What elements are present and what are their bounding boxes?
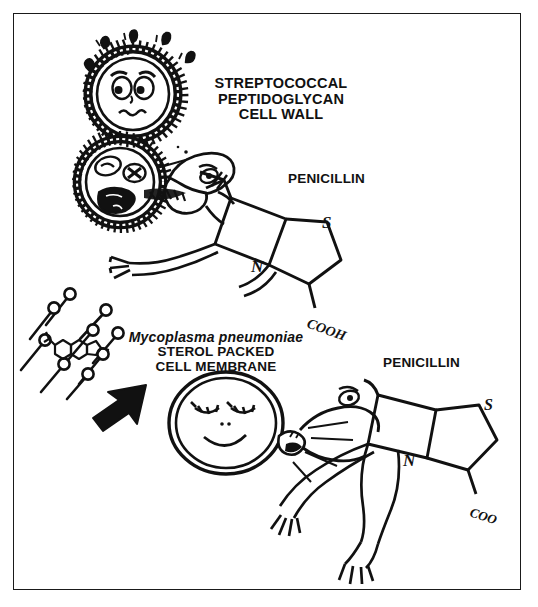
label-penicillin-bottom: PENICILLIN	[383, 356, 501, 371]
sterol-molecules	[21, 288, 124, 399]
sulfur-label-bottom: S	[484, 396, 493, 413]
frustration-lines	[293, 422, 353, 482]
frightened-streptococcus	[83, 31, 195, 148]
label-mycoplasma-pneumoniae: Mycoplasma pneumoniae	[126, 330, 306, 345]
arrow-to-sterols	[93, 385, 146, 431]
label-penicillin-top: PENICILLIN	[288, 172, 406, 187]
carboxyl-label-bottom: COO	[468, 505, 499, 528]
penicillin-leg-bottom	[339, 444, 399, 584]
streptococcus-face	[97, 58, 169, 130]
cell-membrane-inner	[176, 378, 276, 468]
carboxyl-label-top: COOH	[305, 316, 349, 344]
screaming-mouth	[98, 188, 135, 213]
penicillin-creature-bottom: S N COO	[271, 380, 499, 584]
penicillin-arm-top	[110, 244, 218, 278]
nitrogen-label-bottom: N	[402, 451, 416, 470]
penicillin-molecule-bottom	[364, 380, 497, 494]
label-sterol-packed-cell-membrane: STEROL PACKED CELL MEMBRANE	[126, 345, 306, 374]
sulfur-label-top: S	[322, 213, 331, 232]
figure-canvas: S N COOH	[0, 0, 538, 607]
label-streptococcal-cell-wall: STREPTOCOCCAL PEPTIDOGLYCAN CELL WALL	[205, 76, 357, 123]
smiling-mycoplasma	[169, 372, 283, 474]
